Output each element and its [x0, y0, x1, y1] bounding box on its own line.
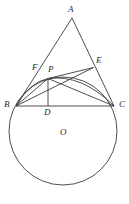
segment-AB — [16, 18, 72, 106]
vertex-label-C: C — [119, 100, 125, 109]
vertex-label-F: F — [32, 63, 38, 72]
vertex-label-A: A — [68, 5, 74, 14]
vertex-label-E: E — [96, 56, 102, 65]
segment-AC — [72, 18, 114, 106]
segment-PE — [48, 68, 94, 79]
vertex-label-D: D — [44, 108, 51, 117]
center-label-O: O — [60, 128, 67, 137]
geometry-figure: A B C D E F P O — [0, 0, 129, 204]
segment-BE — [16, 68, 94, 107]
geometry-canvas — [0, 0, 129, 204]
vertex-label-P: P — [48, 65, 54, 74]
vertex-label-B: B — [4, 100, 10, 109]
